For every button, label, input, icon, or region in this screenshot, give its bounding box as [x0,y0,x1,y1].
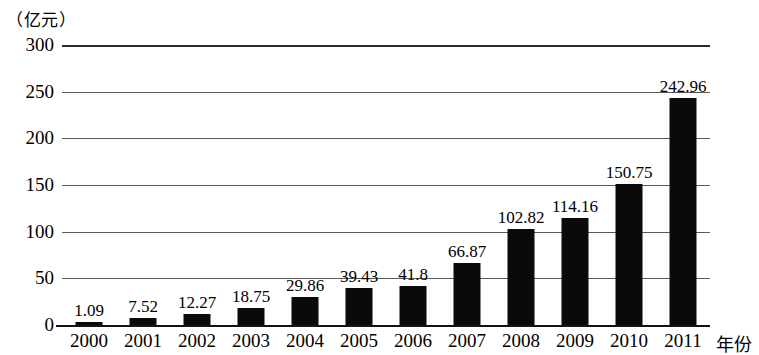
x-axis-tick-label: 2001 [116,330,170,352]
x-axis-tick-label: 2010 [602,330,656,352]
bar-value-label: 41.8 [398,266,428,283]
bar [184,314,211,325]
bar-series: 1.097.5212.2718.7529.8639.4341.866.87102… [62,45,710,325]
bar [508,229,535,325]
x-axis-tick-label: 2002 [170,330,224,352]
bar-value-label: 7.52 [128,298,158,315]
x-axis-tick-label: 2009 [548,330,602,352]
bar-value-label: 150.75 [606,164,653,181]
bar-slot: 66.87 [440,45,494,325]
bar-value-label: 114.16 [552,198,598,215]
y-axis-tick-label: 250 [26,81,55,103]
bar-slot: 39.43 [332,45,386,325]
y-axis-tick-label: 150 [26,174,55,196]
bar-value-label: 1.09 [74,302,104,319]
bar-value-label: 242.96 [660,78,707,95]
bar-slot: 150.75 [602,45,656,325]
x-axis-tick-label: 2005 [332,330,386,352]
bar [454,263,481,325]
bar-value-label: 102.82 [498,209,545,226]
bar [670,98,697,325]
x-axis-title: 年份 [716,330,752,355]
bar-slot: 18.75 [224,45,278,325]
bar-slot: 41.8 [386,45,440,325]
y-axis-tick-label: 300 [26,34,55,56]
bar-slot: 12.27 [170,45,224,325]
y-axis-tick-label: 0 [45,314,55,336]
y-axis-tick-label: 50 [35,267,54,289]
bar [400,286,427,325]
bar-slot: 7.52 [116,45,170,325]
x-axis-line [56,325,710,327]
bar-value-label: 39.43 [340,268,378,285]
x-axis-tick-label: 2006 [386,330,440,352]
bar-slot: 29.86 [278,45,332,325]
bar-slot: 242.96 [656,45,710,325]
bar [238,308,265,326]
bar-slot: 1.09 [62,45,116,325]
bar [292,297,319,325]
x-axis-tick-labels: 2000200120022003200420052006200720082009… [62,330,710,355]
bar-slot: 114.16 [548,45,602,325]
y-axis-tick-label: 100 [26,221,55,243]
x-axis-tick-label: 2000 [62,330,116,352]
x-axis-tick-label: 2011 [656,330,710,352]
bar-value-label: 29.86 [286,277,324,294]
bar [616,184,643,325]
x-axis-tick-label: 2008 [494,330,548,352]
bar [130,318,157,325]
bar-chart: （亿元） 050100150200250300 1.097.5212.2718.… [0,0,759,355]
bar [346,288,373,325]
bar-value-label: 12.27 [178,294,216,311]
plot-area: 050100150200250300 1.097.5212.2718.7529.… [62,45,710,325]
bar-value-label: 66.87 [448,243,486,260]
x-axis-tick-label: 2003 [224,330,278,352]
x-axis-tick-label: 2004 [278,330,332,352]
y-axis-tick-label: 200 [26,127,55,149]
x-axis-tick-label: 2007 [440,330,494,352]
bar-slot: 102.82 [494,45,548,325]
y-axis-unit-caption: （亿元） [6,6,76,31]
bar-value-label: 18.75 [232,288,270,305]
bar [562,218,589,325]
